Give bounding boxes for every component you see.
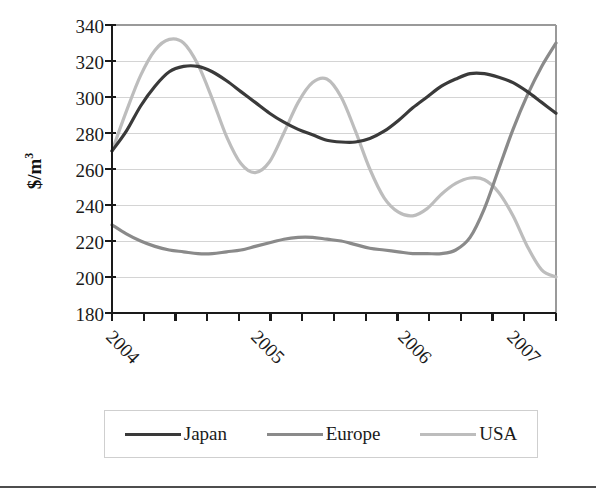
page-bottom-rule: [0, 486, 596, 488]
y-tick-label: 200: [56, 269, 104, 288]
chart-figure: 340 320 300 280 260 240 220 200 180 $/m3…: [0, 0, 596, 492]
y-axis-title-text: $/m: [24, 159, 45, 190]
legend-swatch-usa: [420, 433, 476, 436]
legend-label-japan: Japan: [184, 423, 227, 445]
y-tick-label: 320: [56, 53, 104, 72]
y-tick-label: 280: [56, 125, 104, 144]
legend-item-usa[interactable]: USA: [420, 423, 517, 445]
legend-label-europe: Europe: [326, 423, 381, 445]
y-axis-title: $/m3: [14, 126, 54, 216]
y-tick-label: 300: [56, 89, 104, 108]
y-tick-label: 180: [56, 305, 104, 324]
legend-label-usa: USA: [479, 423, 517, 445]
y-tick-label: 260: [56, 161, 104, 180]
chart-legend: Japan Europe USA: [104, 410, 538, 458]
legend-swatch-japan: [125, 433, 181, 436]
y-tick-label: 340: [56, 17, 104, 36]
legend-item-japan[interactable]: Japan: [125, 423, 227, 445]
y-tick-label: 220: [56, 233, 104, 252]
y-axis-tick-labels: 340 320 300 280 260 240 220 200 180: [44, 0, 104, 492]
y-axis-title-superscript: 3: [22, 153, 36, 159]
y-tick-label: 240: [56, 197, 104, 216]
legend-item-europe[interactable]: Europe: [267, 423, 381, 445]
legend-swatch-europe: [267, 433, 323, 436]
